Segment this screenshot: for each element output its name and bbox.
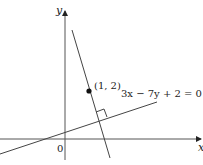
given-line [0,102,157,154]
y-axis-label: y [55,4,63,17]
diagram-canvas: y x 0 (1, 2) 3x − 7y + 2 = 0 [0,0,203,165]
origin-label: 0 [57,143,63,154]
equation-label: 3x − 7y + 2 = 0 [121,88,202,99]
point-marker [86,88,91,93]
point-label: (1, 2) [94,80,121,91]
x-axis-label: x [198,141,203,154]
